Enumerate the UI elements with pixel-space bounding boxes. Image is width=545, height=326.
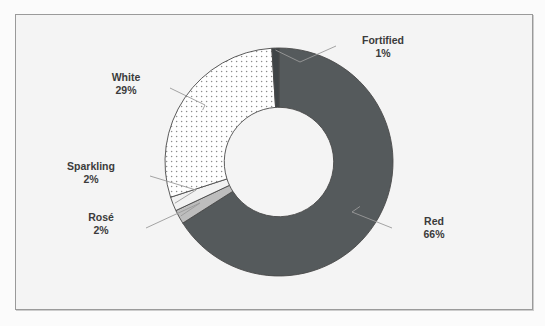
slice-label-sparkling-value: 2% [42, 173, 140, 186]
slice-label-fortified-value: 1% [338, 47, 428, 60]
slice-label-rose-name: Rosé [62, 211, 140, 224]
slice-label-red-name: Red [396, 215, 472, 228]
slice-label-rose: Rosé 2% [62, 211, 140, 237]
slice-label-sparkling-name: Sparkling [42, 160, 140, 173]
slice-label-white-value: 29% [86, 84, 166, 97]
slice-label-rose-value: 2% [62, 224, 140, 237]
slice-label-fortified: Fortified 1% [338, 34, 428, 60]
slice-label-fortified-name: Fortified [338, 34, 428, 47]
slice-label-white: White 29% [86, 71, 166, 97]
slice-label-red: Red 66% [396, 215, 472, 241]
slice-label-sparkling: Sparkling 2% [42, 160, 140, 186]
donut-slices [165, 48, 393, 276]
donut-slice-white [165, 48, 276, 197]
chart-screenshot: Red wine was consistently won awards, wh… [0, 0, 545, 326]
slice-label-red-value: 66% [396, 228, 472, 241]
slice-label-white-name: White [86, 71, 166, 84]
